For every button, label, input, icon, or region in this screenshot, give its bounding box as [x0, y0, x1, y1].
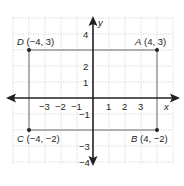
point-label-b: B (4, −2) — [131, 133, 168, 144]
x-tick-label: −3 — [39, 101, 50, 112]
y-tick-label: −3 — [79, 141, 90, 152]
point-d — [27, 48, 31, 52]
y-tick-label: 4 — [83, 29, 88, 40]
y-tick-label: 1 — [83, 77, 88, 88]
point-a — [155, 48, 159, 52]
y-tick-label: −4 — [79, 157, 90, 168]
y-axis — [89, 16, 98, 166]
x-axis-label: x — [163, 101, 170, 112]
x-tick-label: 3 — [138, 101, 143, 112]
x-tick-label: 1 — [106, 101, 111, 112]
y-tick-label: 2 — [83, 61, 88, 72]
y-axis-label: y — [97, 17, 104, 28]
point-name: C — [17, 133, 24, 144]
y-tick-label: −1 — [79, 109, 90, 120]
point-coords: (−4, 3) — [27, 36, 55, 47]
point-label-d: D (−4, 3) — [17, 36, 54, 47]
svg-text:A (4, 3): A (4, 3) — [134, 36, 166, 47]
svg-text:C (−4, −2): C (−4, −2) — [17, 133, 60, 144]
point-c — [27, 128, 31, 132]
point-name: D — [17, 36, 24, 47]
point-label-a: A (4, 3) — [134, 36, 166, 47]
point-coords: (4, 3) — [144, 36, 166, 47]
point-b — [155, 128, 159, 132]
point-coords: (−4, −2) — [27, 133, 60, 144]
point-name: A — [134, 36, 141, 47]
x-tick-label: −2 — [55, 101, 66, 112]
point-name: B — [131, 133, 138, 144]
coordinate-plane: y x −3 −2 −1 1 2 3 4 2 1 −1 −3 −4 D (−4,… — [0, 0, 184, 186]
x-tick-label: 2 — [122, 101, 127, 112]
svg-text:B (4, −2): B (4, −2) — [131, 133, 168, 144]
svg-text:D (−4, 3): D (−4, 3) — [17, 36, 54, 47]
point-coords: (4, −2) — [140, 133, 168, 144]
point-label-c: C (−4, −2) — [17, 133, 60, 144]
